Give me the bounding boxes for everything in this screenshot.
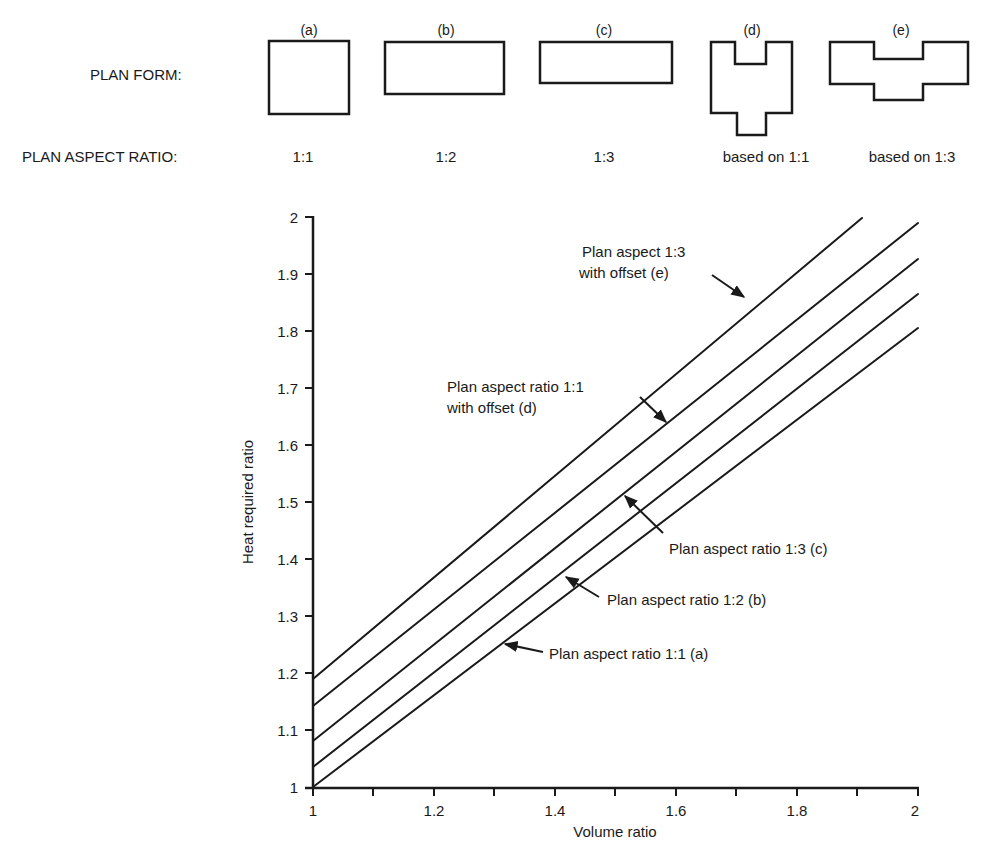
arrow-e-icon (712, 275, 744, 297)
annotation-e-line2: with offset (e) (578, 264, 669, 281)
annotation-d-line2: with offset (d) (446, 399, 537, 416)
form-id-e: (e) (892, 22, 909, 38)
series-line-d (313, 223, 918, 706)
x-tick-label: 1.4 (545, 802, 566, 819)
plan-aspect-ratio-label: PLAN ASPECT RATIO: (22, 148, 177, 165)
y-tick-label: 2 (290, 209, 298, 226)
form-ratio-c: 1:3 (594, 148, 615, 165)
annotation-labels: Plan aspect 1:3 with offset (e) Plan asp… (446, 243, 827, 662)
form-ratio-e: based on 1:3 (869, 148, 956, 165)
x-tick-label: 1.8 (787, 802, 808, 819)
y-tick-label: 1.2 (277, 665, 298, 682)
annotation-d-line1: Plan aspect ratio 1:1 (447, 378, 584, 395)
annotation-a: Plan aspect ratio 1:1 (a) (549, 645, 708, 662)
y-tick-label: 1.1 (277, 722, 298, 739)
y-tick-label: 1 (290, 779, 298, 796)
series-lines (313, 218, 918, 787)
form-id-b: (b) (437, 22, 454, 38)
y-tick-label: 1.7 (277, 380, 298, 397)
arrow-c-icon (625, 496, 663, 533)
x-tick-label: 1 (309, 802, 317, 819)
annotation-b: Plan aspect ratio 1:2 (b) (607, 591, 766, 608)
series-line-e (313, 218, 862, 679)
y-tick-label: 1.3 (277, 608, 298, 625)
plan-shape-d (711, 42, 792, 135)
arrow-d-icon (640, 397, 666, 422)
y-tick-label: 1.8 (277, 323, 298, 340)
form-id-d: (d) (743, 22, 760, 38)
form-id-a: (a) (300, 22, 317, 38)
y-tick-label: 1.9 (277, 266, 298, 283)
plan-shape-a (269, 41, 349, 114)
x-tick-label: 1.6 (666, 802, 687, 819)
annotation-c: Plan aspect ratio 1:3 (c) (669, 540, 827, 557)
series-line-c (313, 259, 918, 741)
y-tick-label: 1.6 (277, 437, 298, 454)
x-tick-label: 1.2 (424, 802, 445, 819)
arrow-b-icon (566, 577, 599, 597)
figure: PLAN FORM: PLAN ASPECT RATIO: (a) (b) (c… (0, 0, 994, 854)
y-axis-label: Heat required ratio (239, 440, 256, 564)
y-tick-labels: 2 1.9 1.8 1.7 1.6 1.5 1.4 1.3 1.2 1.1 1 (277, 209, 298, 796)
form-ratio-b: 1:2 (436, 148, 457, 165)
form-ratio-a: 1:1 (293, 148, 314, 165)
plan-shape-b (385, 42, 504, 94)
x-axis-label: Volume ratio (573, 823, 656, 840)
form-ratio-d: based on 1:1 (723, 148, 810, 165)
plan-shape-c (540, 42, 672, 83)
y-tick-label: 1.4 (277, 551, 298, 568)
plan-form-label: PLAN FORM: (90, 66, 182, 83)
series-line-b (313, 294, 918, 767)
plan-shape-e (830, 42, 968, 100)
annotation-e-line1: Plan aspect 1:3 (582, 243, 685, 260)
y-tick-label: 1.5 (277, 494, 298, 511)
x-tick-labels: 1 1.2 1.4 1.6 1.8 2 (309, 802, 919, 819)
form-id-c: (c) (596, 22, 612, 38)
series-line-a (313, 328, 918, 787)
x-tick-label: 2 (911, 802, 919, 819)
arrow-a-icon (505, 644, 543, 652)
